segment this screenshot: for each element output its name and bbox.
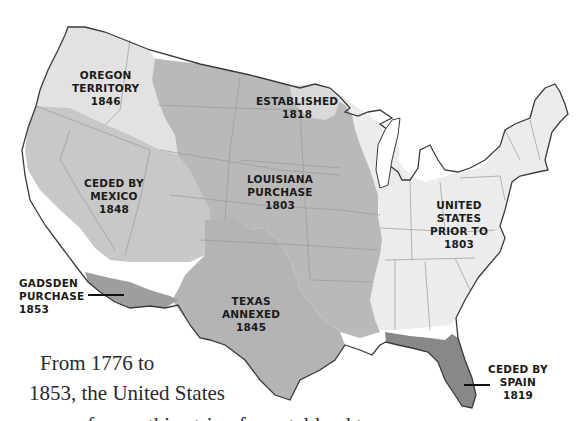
label-line: STATES	[430, 212, 488, 225]
label-line: TERRITORY	[72, 82, 139, 95]
label-line: SPAIN	[488, 376, 548, 389]
label-line: 1845	[222, 321, 280, 334]
label-line: UNITED	[430, 199, 488, 212]
region-gadsden-purchase	[85, 272, 178, 308]
label-line: ANNEXED	[222, 308, 280, 321]
label-line: GADSDEN	[19, 277, 84, 290]
label-line: 1853	[19, 303, 84, 316]
caption-line-3: grew from a thin strip of coastal land t…	[40, 413, 372, 421]
label-texas-annexed: TEXAS ANNEXED 1845	[222, 295, 280, 334]
label-louisiana-purchase: LOUISIANA PURCHASE 1803	[247, 173, 313, 212]
label-line: CEDED BY	[84, 177, 144, 190]
label-ceded-by-mexico: CEDED BY MEXICO 1848	[84, 177, 144, 216]
label-line: PRIOR TO	[430, 225, 488, 238]
label-line: 1846	[72, 95, 139, 108]
label-line: MEXICO	[84, 190, 144, 203]
label-line: 1818	[256, 108, 338, 121]
label-line: 1819	[488, 389, 548, 402]
label-ceded-by-spain: CEDED BY SPAIN 1819	[488, 363, 548, 402]
label-line: CEDED BY	[488, 363, 548, 376]
caption-line-2: 1853, the United States	[29, 381, 225, 406]
label-line: TEXAS	[222, 295, 280, 308]
label-line: OREGON	[72, 69, 139, 82]
label-us-prior-1803: UNITED STATES PRIOR TO 1803	[430, 199, 488, 251]
label-line: 1848	[84, 203, 144, 216]
label-established-1818: ESTABLISHED 1818	[256, 95, 338, 121]
label-gadsden-purchase: GADSDEN PURCHASE 1853	[19, 277, 84, 316]
label-line: 1803	[247, 199, 313, 212]
label-line: ESTABLISHED	[256, 95, 338, 108]
caption-line-1: From 1776 to	[40, 351, 154, 376]
label-line: PURCHASE	[19, 290, 84, 303]
label-line: LOUISIANA	[247, 173, 313, 186]
label-line: 1803	[430, 238, 488, 251]
label-line: PURCHASE	[247, 186, 313, 199]
label-oregon-territory: OREGON TERRITORY 1846	[72, 69, 139, 108]
region-ceded-by-spain	[385, 332, 476, 408]
